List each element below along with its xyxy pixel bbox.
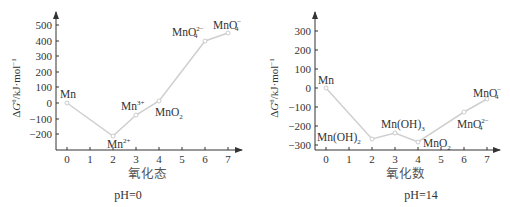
x-tick-label: 4: [156, 153, 162, 165]
x-tick-label: 5: [179, 153, 185, 165]
y-tick-label: −100: [29, 113, 52, 125]
y-tick-label: 100: [36, 81, 53, 93]
x-tick-label: 2: [369, 153, 375, 165]
point-label-mn2plus: Mn2+: [107, 137, 130, 150]
x-tick-label: 1: [346, 153, 352, 165]
charts-canvas: 500 400 300 200 100 0 −100 −200 0 1 2 3 …: [0, 0, 510, 207]
point-label-mn3plus: Mn3+: [121, 99, 144, 112]
y-axis-title: ΔGθ/kJ·mol−1: [10, 58, 22, 118]
x-tick-label: 6: [461, 153, 467, 165]
y-ticks: 300 200 100 0 −100 −200 −300: [288, 25, 318, 151]
chart-caption: pH=14: [404, 188, 437, 202]
chart-ph0: 500 400 300 200 100 0 −100 −200 0 1 2 3 …: [10, 12, 242, 202]
x-axis-title: 氧化数: [386, 166, 425, 181]
point-label-mnoh2: Mn(OH)2: [317, 131, 361, 146]
x-tick-label: 3: [392, 153, 398, 165]
y-tick-label: 400: [36, 35, 53, 47]
y-tick-label: 500: [36, 19, 53, 31]
x-tick-label: 7: [225, 153, 231, 165]
chart-caption: pH=0: [114, 188, 141, 202]
y-axis-title: ΔGθ/kJ·mol−1: [268, 58, 280, 118]
y-tick-label: 0: [47, 97, 53, 109]
series-line: [67, 33, 228, 136]
y-tick-label: −200: [29, 128, 52, 140]
point-label-mno4-2minus-sub: 4: [194, 32, 198, 40]
point-label-mno4-2minus: MnO2−: [457, 117, 489, 130]
x-tick-label: 1: [87, 153, 93, 165]
point-label-mnoh3: Mn(OH)3: [381, 118, 425, 133]
y-tick-label: 200: [295, 44, 312, 56]
x-tick-label: 7: [484, 153, 490, 165]
y-tick-label: 300: [36, 50, 53, 62]
data-points: [65, 31, 230, 138]
point-label-mno4-2minus-sub: 4: [479, 124, 483, 132]
point-label-mno4minus-sub: 4: [495, 93, 499, 101]
point-label-mn: Mn: [318, 74, 334, 86]
x-tick-label: 3: [133, 153, 139, 165]
y-ticks: 500 400 300 200 100 0 −100 −200: [29, 19, 59, 140]
x-tick-label: 4: [415, 153, 421, 165]
point-label-mno4minus-sub: 4: [235, 25, 239, 33]
x-tick-label: 5: [438, 153, 444, 165]
x-axis-title: 氧化态: [128, 166, 167, 181]
y-tick-label: −200: [288, 120, 311, 132]
x-tick-label: 2: [110, 153, 116, 165]
chart-ph14: 300 200 100 0 −100 −200 −300 0 1 2 3 4 5…: [268, 12, 501, 202]
x-tick-label: 6: [202, 153, 208, 165]
y-tick-label: 300: [295, 25, 312, 37]
point-label-mno4-2minus: MnO2−: [172, 25, 204, 38]
y-tick-label: 100: [295, 63, 312, 75]
x-tick-label: 0: [64, 153, 70, 165]
x-tick-label: 0: [323, 153, 329, 165]
y-tick-label: −300: [288, 139, 311, 151]
y-tick-label: 0: [306, 82, 312, 94]
point-label-mn: Mn: [60, 88, 76, 100]
y-tick-label: −100: [288, 101, 311, 113]
y-tick-label: 200: [36, 66, 53, 78]
point-label-mno2: MnO2: [155, 106, 183, 121]
